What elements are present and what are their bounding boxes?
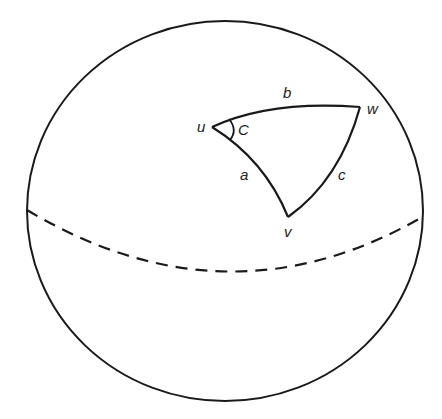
- equator-dashed-line: [27, 210, 424, 272]
- angle-c-label: C: [238, 121, 249, 138]
- side-b-arc: [212, 106, 360, 127]
- side-c-arc: [288, 107, 360, 217]
- side-b-label: b: [283, 84, 291, 101]
- side-a-arc: [212, 127, 288, 217]
- vertex-v-label: v: [284, 223, 293, 240]
- vertex-u-label: u: [197, 118, 206, 135]
- side-a-label: a: [240, 166, 248, 183]
- angle-c-arc: [229, 119, 234, 140]
- side-c-label: c: [338, 166, 346, 183]
- spherical-triangle-diagram: u w v b a c C: [0, 0, 442, 419]
- sphere-outline: [27, 21, 423, 401]
- vertex-w-label: w: [367, 100, 379, 117]
